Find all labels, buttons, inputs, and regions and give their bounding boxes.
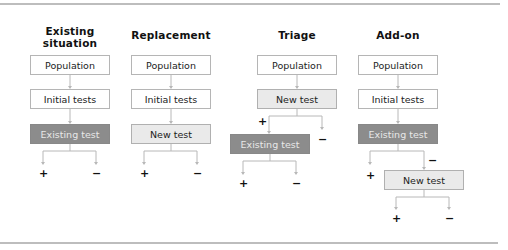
col4-branch-positive-label: + bbox=[366, 170, 375, 181]
col3-branch-negative-label: − bbox=[318, 134, 327, 145]
col3-existing-test-box: Existing test bbox=[230, 134, 310, 154]
title-existing-situation: Existing situation bbox=[30, 25, 110, 49]
col4-negative-outcome: − bbox=[445, 213, 454, 224]
col3-negative-outcome: − bbox=[292, 178, 301, 189]
col3-new-test-box: New test bbox=[257, 89, 337, 109]
col4-positive-outcome: + bbox=[392, 213, 401, 224]
col3-population-box: Population bbox=[257, 55, 337, 75]
col1-population-box: Population bbox=[30, 55, 110, 75]
col1-initial-tests-box: Initial tests bbox=[30, 89, 110, 109]
col1-existing-test-box: Existing test bbox=[30, 124, 110, 144]
col3-positive-outcome: + bbox=[239, 178, 248, 189]
col2-positive-outcome: + bbox=[140, 168, 149, 179]
col1-negative-outcome: − bbox=[92, 168, 101, 179]
col4-population-box: Population bbox=[358, 55, 438, 75]
title-replacement: Replacement bbox=[126, 29, 216, 41]
col4-new-test-box: New test bbox=[384, 170, 464, 190]
col4-branch-negative-label: − bbox=[428, 155, 437, 166]
title-add-on: Add-on bbox=[358, 29, 438, 41]
col2-negative-outcome: − bbox=[193, 168, 202, 179]
col3-branch-positive-label: + bbox=[258, 116, 267, 127]
col2-initial-tests-box: Initial tests bbox=[131, 89, 211, 109]
title-triage: Triage bbox=[257, 29, 337, 41]
col4-initial-tests-box: Initial tests bbox=[358, 89, 438, 109]
col2-population-box: Population bbox=[131, 55, 211, 75]
col4-existing-test-box: Existing test bbox=[358, 124, 438, 144]
col2-new-test-box: New test bbox=[131, 124, 211, 144]
col1-positive-outcome: + bbox=[39, 168, 48, 179]
